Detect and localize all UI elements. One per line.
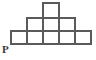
square-cell-bottom-row-4 xyxy=(59,31,75,44)
square-cell-bottom-row-5 xyxy=(75,31,91,44)
square-cell-middle-row-2 xyxy=(43,18,59,31)
square-cell-top-row-1 xyxy=(43,3,59,18)
figure-canvas: P xyxy=(0,0,96,60)
staircase-figure: P xyxy=(0,0,96,60)
square-cell-middle-row-1 xyxy=(27,18,43,31)
square-cell-bottom-row-3 xyxy=(43,31,59,44)
square-cell-middle-row-3 xyxy=(59,18,75,31)
vertex-label-p: P xyxy=(2,43,9,55)
square-cell-bottom-row-2 xyxy=(27,31,43,44)
square-cell-bottom-row-1 xyxy=(11,31,27,44)
